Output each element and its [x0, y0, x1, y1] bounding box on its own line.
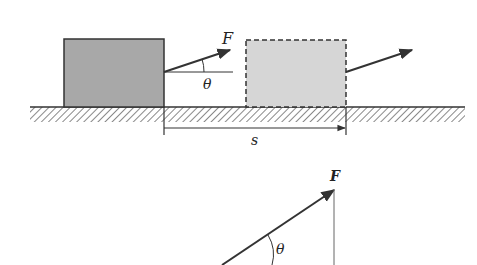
ground: [30, 107, 465, 122]
force-arrow-initial: [164, 50, 230, 72]
angle-label-top: θ: [203, 76, 212, 92]
angle-arc-top: [202, 59, 204, 72]
block-final: [246, 40, 346, 107]
displacement-label: s: [251, 132, 258, 148]
force-arrow-final: [346, 50, 412, 72]
block-initial: [64, 39, 164, 107]
angle-arc-bottom: [268, 235, 273, 265]
force-label-bottom: F: [329, 168, 341, 184]
force-label-top: F: [221, 29, 234, 48]
force-work-diagram: F θ s F θ: [0, 0, 477, 265]
angle-label-bottom: θ: [276, 241, 285, 257]
